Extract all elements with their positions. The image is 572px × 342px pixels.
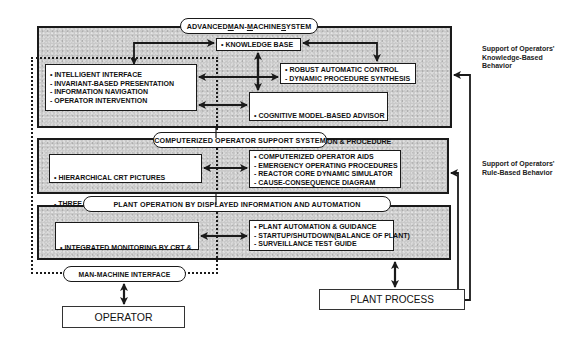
advisor-item: • COGNITIVE MODEL-BASED ADVISOR [254, 112, 383, 121]
interface-item: • INTELLIGENT INTERFACE [50, 71, 192, 80]
layer-plant-operation-title: PLANT OPERATION BY DISPLAYED INFORMATION… [83, 196, 391, 212]
robust-control-box: • ROBUST AUTOMATIC CONTROL - DYNAMIC PRO… [280, 63, 416, 84]
plant-process-box: PLANT PROCESS [319, 289, 465, 310]
operator-box: OPERATOR [62, 306, 185, 328]
aids-item: - EMERGENCY OPERATING PROCEDURES [254, 162, 396, 171]
feedback-knowledge-arrow [454, 75, 470, 300]
aids-item: • COMPUTERIZED OPERATOR AIDS [254, 153, 396, 162]
control-item: - DYNAMIC PROCEDURE SYNTHESIS [285, 75, 411, 84]
control-item: • ROBUST AUTOMATIC CONTROL [285, 66, 411, 75]
operator-label: OPERATOR [95, 311, 153, 323]
note-knowledge-based: Support of Operators' Knowledge-Based Be… [482, 45, 554, 71]
knowledge-base-box: • KNOWLEDGE BASE [216, 38, 301, 51]
automation-item: - SURVEILLANCE TEST GUIDE [254, 240, 389, 249]
layer-advanced-mms-title: ADVANCED MAN-MACHINE SYSTEM [180, 18, 318, 34]
mmi-label: MAN-MACHINE INTERFACE [63, 266, 186, 282]
plant-process-label: PLANT PROCESS [350, 294, 434, 305]
automation-item: - STARTUP/SHUTDOWN(BALANCE OF PLANT) [254, 232, 389, 241]
layer-coss-title: COMPUTERIZED OPERATOR SUPPORT SYSTEM [153, 132, 327, 148]
automation-item: • PLANT AUTOMATION & GUIDANCE [254, 223, 389, 232]
display-item: • HIERARCHICAL CRT PICTURES [54, 174, 197, 183]
integrated-monitoring-box: • INTEGRATED MONITORING BY CRT & CONVENT… [55, 222, 199, 250]
interface-item: - OPERATOR INTERVENTION [50, 97, 192, 106]
plant-automation-box: • PLANT AUTOMATION & GUIDANCE - STARTUP/… [249, 220, 394, 251]
cognitive-advisor-box: • COGNITIVE MODEL-BASED ADVISOR - STATE … [249, 92, 388, 121]
operator-aids-box: • COMPUTERIZED OPERATOR AIDS - EMERGENCY… [249, 150, 401, 188]
feedback-rule-arrow [451, 173, 458, 289]
intelligent-interface-box: • INTELLIGENT INTERFACE - INVARIANT-BASE… [45, 64, 197, 111]
interface-item: - INVARIANT-BASED PRESENTATION [50, 80, 192, 89]
hierarchical-crt-box: • HIERARCHICAL CRT PICTURES - THREE LEVE… [49, 154, 202, 183]
monitoring-item: • INTEGRATED MONITORING BY CRT & [60, 244, 194, 253]
interface-item: - INFORMATION NAVIGATION [50, 88, 192, 97]
aids-item: - REACTOR CORE DYNAMIC SIMULATOR [254, 170, 396, 179]
aids-item: - CAUSE-CONSEQUENCE DIAGRAM [254, 179, 396, 188]
knowledge-base-label: • KNOWLEDGE BASE [221, 40, 296, 49]
note-rule-based: Support of Operators' Rule-Based Behavio… [482, 160, 554, 177]
